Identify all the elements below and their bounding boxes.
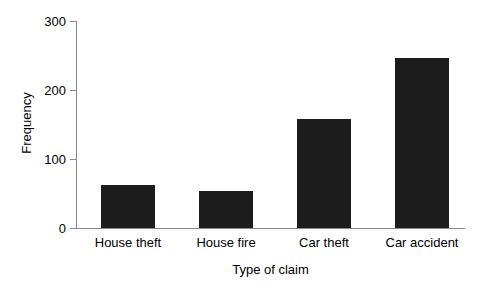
x-axis-title: Type of claim <box>76 262 465 277</box>
y-tick-mark-0 <box>70 228 76 229</box>
y-tick-mark-100 <box>70 159 76 160</box>
y-tick-mark-200 <box>70 90 76 91</box>
x-tick-label-house-theft: House theft <box>78 235 178 250</box>
y-tick-label-200: 200 <box>6 84 66 97</box>
x-tick-label-house-fire: House fire <box>176 235 276 250</box>
x-axis-line <box>76 228 465 229</box>
bar-house-fire <box>199 191 253 228</box>
y-axis-title: Frequency <box>16 18 38 228</box>
bar-house-theft <box>101 185 155 228</box>
x-tick-label-car-accident: Car accident <box>372 235 472 250</box>
x-tick-label-car-theft: Car theft <box>274 235 374 250</box>
y-axis-line <box>76 21 77 229</box>
y-tick-label-100: 100 <box>6 153 66 166</box>
bar-car-theft <box>297 119 351 228</box>
bar-car-accident <box>395 58 449 228</box>
bar-chart: Frequency 0 100 200 300 House theft Hous… <box>0 0 477 290</box>
y-tick-label-300: 300 <box>6 15 66 28</box>
y-tick-mark-300 <box>70 21 76 22</box>
y-tick-label-0: 0 <box>6 222 66 235</box>
